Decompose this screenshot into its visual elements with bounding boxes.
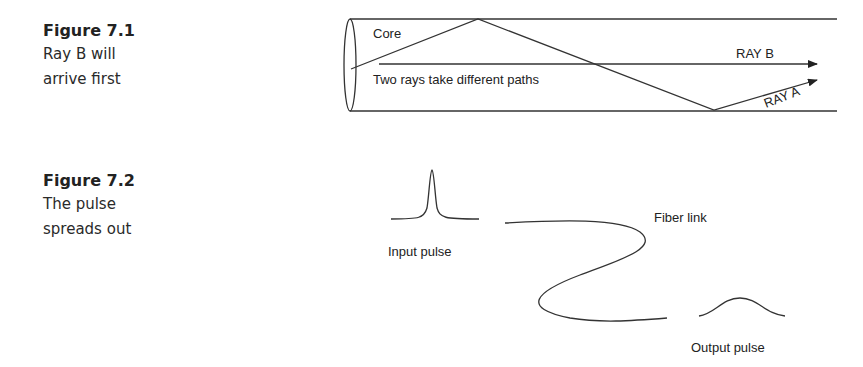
fiber-end-ellipse: [344, 19, 356, 111]
output-pulse-shape: [699, 298, 785, 316]
paths-note-label: Two rays take different paths: [373, 72, 539, 87]
input-pulse-label: Input pulse: [388, 244, 452, 259]
ray-a-label: RAY A: [762, 83, 802, 110]
ray-b-label: RAY B: [736, 46, 774, 61]
fiber-link-label: Fiber link: [654, 210, 707, 225]
input-pulse-shape: [391, 170, 479, 219]
fiber-link-curve: [505, 221, 667, 321]
core-label: Core: [373, 26, 401, 41]
figures-canvas: Core Two rays take different paths RAY B…: [0, 0, 863, 367]
output-pulse-label: Output pulse: [691, 340, 765, 355]
